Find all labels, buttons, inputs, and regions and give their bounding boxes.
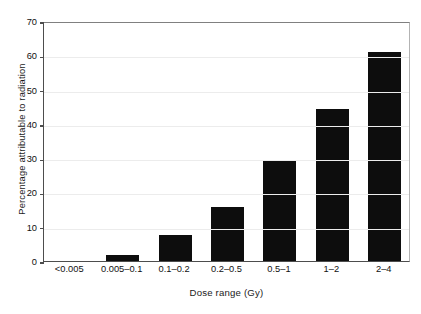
x-axis-tick-label: 0.2–0.5	[211, 264, 242, 274]
bar	[106, 255, 139, 261]
y-axis-tick	[40, 228, 44, 229]
gridline	[44, 194, 409, 195]
x-axis-tick-label: 0.005–0.1	[101, 264, 142, 274]
y-axis-tick-label: 10	[11, 223, 37, 233]
bar	[159, 235, 192, 261]
y-axis-tick-label: 40	[11, 120, 37, 130]
bar	[263, 160, 296, 261]
x-axis-tick-label: 0.1–0.2	[159, 264, 190, 274]
gridline	[44, 57, 409, 58]
y-axis-tick-label: 30	[11, 154, 37, 164]
bar-chart-figure: Percentage attributable to radiation 010…	[0, 0, 421, 314]
bar	[316, 109, 349, 261]
y-axis-tick-label: 50	[11, 86, 37, 96]
bar	[211, 207, 244, 261]
plot-area	[43, 22, 410, 262]
x-axis-tick-label: 0.5–1	[267, 264, 290, 274]
y-axis-tick	[40, 57, 44, 58]
y-axis-tick-label: 70	[11, 17, 37, 27]
y-axis-tick-label: 0	[11, 257, 37, 267]
y-axis-tick	[40, 91, 44, 92]
y-axis-tick	[40, 194, 44, 195]
x-axis-tick-label: 2–4	[376, 264, 392, 274]
x-axis-tick-label: 1–2	[324, 264, 340, 274]
y-axis-tick	[40, 22, 44, 23]
gridline	[44, 160, 409, 161]
y-axis-tick	[40, 125, 44, 126]
x-axis-tick-labels: <0.0050.005–0.10.1–0.20.2–0.50.5–11–22–4	[43, 264, 410, 282]
y-axis-tick-label: 20	[11, 188, 37, 198]
x-axis-title: Dose range (Gy)	[43, 287, 410, 298]
gridline	[44, 229, 409, 230]
y-axis-tick-label: 60	[11, 51, 37, 61]
bars-layer	[44, 23, 409, 261]
x-axis-tick-label: <0.005	[55, 264, 84, 274]
gridline	[44, 92, 409, 93]
y-axis-tick	[40, 160, 44, 161]
y-axis-tick-labels: 010203040506070	[7, 22, 37, 262]
gridline	[44, 126, 409, 127]
